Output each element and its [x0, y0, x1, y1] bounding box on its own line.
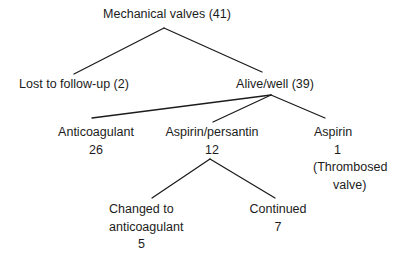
node-lost-label: Lost to follow-up (2) — [12, 76, 136, 94]
node-changed-label-line2: anticoagulant — [106, 219, 198, 237]
edge-root-alive — [164, 28, 262, 72]
edge-aspirin-persantin-continued — [210, 159, 275, 198]
node-changed-to-anticoagulant: Changed to anticoagulant 5 — [106, 201, 198, 254]
node-alive-label: Alive/well (39) — [231, 76, 319, 94]
node-aspirin-persantin: Aspirin/persantin 12 — [156, 124, 268, 159]
node-changed-count: 5 — [106, 236, 198, 254]
node-changed-label-line1: Changed to — [106, 201, 198, 219]
node-aspirin-label: Aspirin — [310, 124, 400, 142]
node-root: Mechanical valves (41) — [98, 6, 236, 24]
node-aspirin: Aspirin 1 (Thrombosed valve) — [310, 124, 400, 194]
node-aspirin-count: 1 — [310, 142, 400, 160]
edge-aspirin-persantin-changed — [152, 159, 210, 198]
edge-alive-anticoagulant — [92, 95, 271, 118]
node-aspirin-note-line2: valve) — [310, 177, 400, 195]
node-continued-count: 7 — [243, 219, 313, 237]
node-aspirin-note-line1: (Thrombosed — [310, 159, 400, 177]
valve-outcome-tree: Mechanical valves (41) Lost to follow-up… — [0, 0, 406, 257]
node-aspirin-persantin-count: 12 — [156, 142, 268, 160]
node-alive-well: Alive/well (39) — [231, 76, 319, 94]
node-lost-to-follow-up: Lost to follow-up (2) — [12, 76, 136, 94]
node-anticoagulant-label: Anticoagulant — [50, 124, 142, 142]
node-root-label: Mechanical valves (41) — [98, 6, 236, 24]
edge-alive-aspirin — [271, 95, 325, 118]
node-continued-label: Continued — [243, 201, 313, 219]
edge-root-lost — [74, 28, 164, 74]
node-continued: Continued 7 — [243, 201, 313, 236]
node-anticoagulant: Anticoagulant 26 — [50, 124, 142, 159]
node-anticoagulant-count: 26 — [50, 142, 142, 160]
node-aspirin-persantin-label: Aspirin/persantin — [156, 124, 268, 142]
